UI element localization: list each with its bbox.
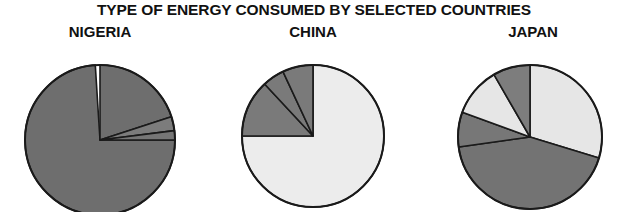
pie-japan [458, 65, 602, 209]
pie-china [242, 65, 384, 207]
pie-nigeria [25, 65, 175, 212]
pie-charts-svg [0, 0, 628, 212]
pie-chart-figure: TYPE OF ENERGY CONSUMED BY SELECTED COUN… [0, 0, 628, 212]
